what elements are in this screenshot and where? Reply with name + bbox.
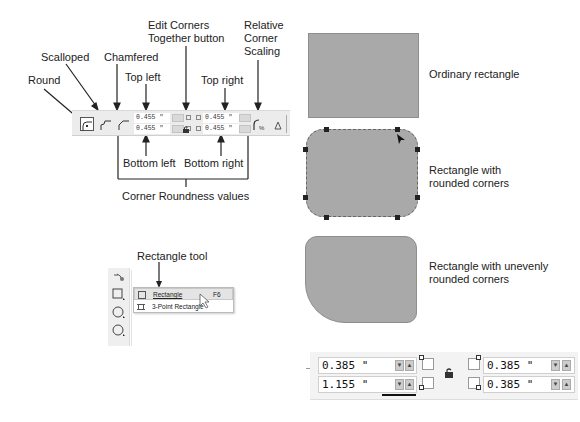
- selection-handle[interactable]: [415, 195, 420, 200]
- flyout-item-label: 3-Point Rectangle: [152, 301, 204, 313]
- bottom-left-decrement[interactable]: ▼: [395, 379, 404, 390]
- chamfered-corner-icon: [116, 117, 130, 131]
- flyout-item-shortcut: F6: [213, 289, 221, 301]
- bottom-left-increment[interactable]: ▲: [405, 379, 414, 390]
- selection-handle[interactable]: [395, 215, 400, 220]
- bottom-right-decrement[interactable]: ▼: [551, 379, 560, 390]
- chamfered-corner-button[interactable]: [116, 117, 130, 131]
- toolbar-separator: [286, 115, 287, 133]
- rectangle-icon: [138, 291, 146, 299]
- svg-text:%: %: [259, 125, 265, 131]
- selection-handle[interactable]: [415, 147, 420, 152]
- label-line: Rectangle with unevenly: [429, 260, 548, 273]
- label-line: Rectangle with: [429, 164, 509, 177]
- selection-handle[interactable]: [324, 127, 329, 132]
- bottom-right-increment[interactable]: ▲: [562, 379, 571, 390]
- top-right-corner-icon: [468, 358, 480, 370]
- selection-handle[interactable]: [395, 127, 400, 132]
- relative-corner-scaling-button[interactable]: %: [252, 117, 266, 131]
- bottom-right-corner-icon: [196, 126, 201, 131]
- shape-cursor-icon: [396, 133, 406, 145]
- top-right-corner-input[interactable]: 0.455 ": [203, 113, 239, 123]
- callout-corner-roundness: Corner Roundness values: [122, 190, 249, 203]
- ordinary-rectangle[interactable]: [308, 33, 419, 118]
- callout-bottom-left: Bottom left: [123, 157, 176, 170]
- flyout-item-3-point-rectangle[interactable]: 3-Point Rectangle: [134, 301, 233, 313]
- bottom-right-spinner[interactable]: [239, 125, 251, 133]
- rectangle-tool-arrow: [155, 262, 163, 288]
- round-corner-icon: [81, 120, 93, 132]
- wrap-icon: [272, 119, 284, 131]
- top-right-increment[interactable]: ▲: [562, 360, 571, 371]
- top-right-decrement[interactable]: ▼: [551, 360, 560, 371]
- top-right-corner-icon: [196, 115, 201, 120]
- label-line: rounded corners: [429, 273, 548, 286]
- edit-corners-together-lock-icon[interactable]: [444, 368, 454, 378]
- selection-handle[interactable]: [324, 215, 329, 220]
- bottom-left-corner-input[interactable]: 0.455 ": [134, 124, 170, 134]
- selection-handle[interactable]: [303, 195, 308, 200]
- bottom-left-corner-icon: [422, 377, 434, 389]
- wrap-text-button[interactable]: [272, 117, 286, 131]
- uneven-rectangle-label: Rectangle with unevenly rounded corners: [429, 260, 548, 286]
- lock-icon: [183, 126, 189, 133]
- relative-scaling-icon: %: [252, 117, 266, 131]
- scalloped-corner-icon: [98, 117, 112, 131]
- toolbox-strip: [108, 268, 130, 346]
- top-right-spinner[interactable]: [239, 114, 251, 122]
- corner-values-bar: 0.385 " ▼ ▲ 1.155 " ▼ ▲ 0.385 " ▼ ▲ 0.38…: [310, 352, 578, 400]
- flyout-item-rectangle[interactable]: Rectangle F6: [134, 288, 233, 300]
- polygon-tool-icon[interactable]: [112, 324, 126, 337]
- bottom-right-corner-icon: [468, 377, 480, 389]
- callout-arrows: [0, 0, 300, 200]
- callout-bottom-right: Bottom right: [184, 157, 243, 170]
- 3-point-rectangle-icon: [137, 303, 145, 311]
- smart-fill-icon[interactable]: [113, 272, 125, 282]
- active-field-underline: [382, 394, 416, 396]
- top-left-decrement[interactable]: ▼: [395, 360, 404, 371]
- top-left-corner-icon: [422, 358, 434, 370]
- property-bar: 0.455 " 0.455 " 0.455 " 0.455 " %: [72, 110, 290, 136]
- top-left-corner-input[interactable]: 0.455 ": [134, 113, 170, 123]
- top-left-increment[interactable]: ▲: [405, 360, 414, 371]
- toolbox-divider: [131, 270, 132, 346]
- uneven-rounded-rectangle[interactable]: [305, 236, 417, 323]
- rectangle-flyout-menu: Rectangle F6 3-Point Rectangle: [133, 287, 234, 313]
- rectangle-tool-icon[interactable]: [112, 288, 126, 301]
- ellipse-tool-icon[interactable]: [112, 306, 126, 319]
- flyout-item-label: Rectangle: [153, 289, 182, 301]
- mouse-cursor-icon: [199, 293, 211, 309]
- selection-handle[interactable]: [303, 147, 308, 152]
- callout-rectangle-tool: Rectangle tool: [137, 250, 207, 263]
- rounded-rectangle-label: Rectangle with rounded corners: [429, 164, 509, 190]
- scalloped-corner-button[interactable]: [98, 117, 112, 131]
- round-corner-button[interactable]: [80, 117, 94, 131]
- edit-corners-together-button[interactable]: [183, 119, 189, 126]
- bottom-right-corner-input[interactable]: 0.455 ": [203, 124, 239, 134]
- ordinary-rectangle-label: Ordinary rectangle: [429, 68, 520, 81]
- label-line: rounded corners: [429, 177, 509, 190]
